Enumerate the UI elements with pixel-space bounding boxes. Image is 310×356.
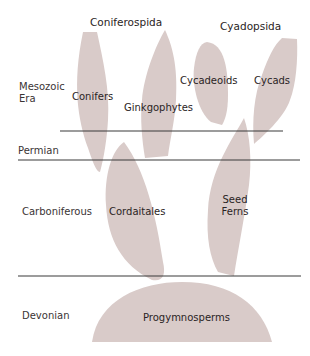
label-seed-ferns-line2: Ferns [218, 206, 252, 218]
label-cordaitales: Cordaitales [109, 206, 165, 218]
era-mesozoic-line1: Mesozoic [19, 81, 65, 93]
era-devonian: Devonian [22, 310, 69, 322]
cycads-shape [253, 38, 297, 144]
title-coniferospida: Coniferospida [90, 16, 162, 28]
title-cyadopsida: Cyadopsida [220, 20, 281, 32]
era-mesozoic-line2: Era [19, 93, 36, 105]
label-progymnosperms: Progymnosperms [143, 312, 230, 324]
era-permian: Permian [18, 145, 59, 157]
label-ginkgophytes: Ginkgophytes [124, 102, 193, 114]
label-conifers: Conifers [72, 91, 113, 103]
label-cycads: Cycads [254, 75, 290, 87]
label-seed-ferns-line1: Seed [218, 194, 252, 206]
ginkgophytes-shape [141, 30, 176, 158]
phylogeny-shapes [0, 0, 310, 356]
label-cycadeoids: Cycadeoids [180, 75, 237, 87]
era-carboniferous: Carboniferous [22, 206, 92, 218]
